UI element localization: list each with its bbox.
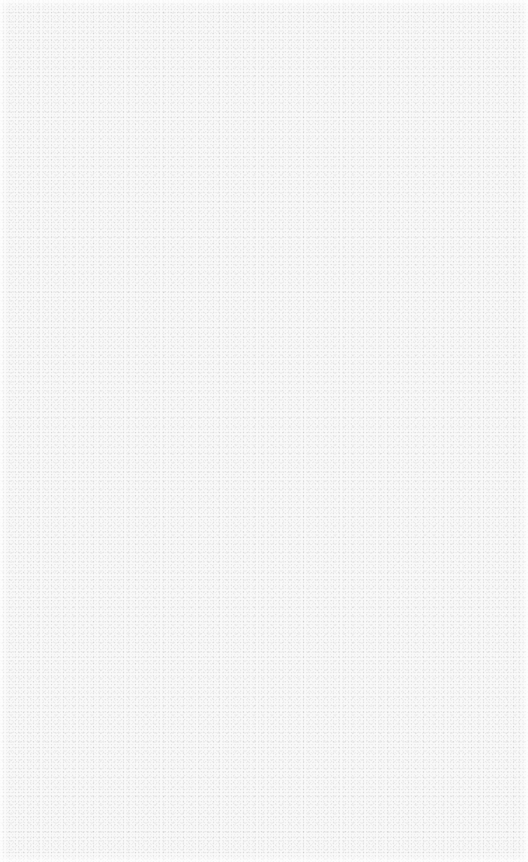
blank-textured-canvas [0, 0, 528, 862]
canvas-edge-vignette [0, 0, 528, 862]
